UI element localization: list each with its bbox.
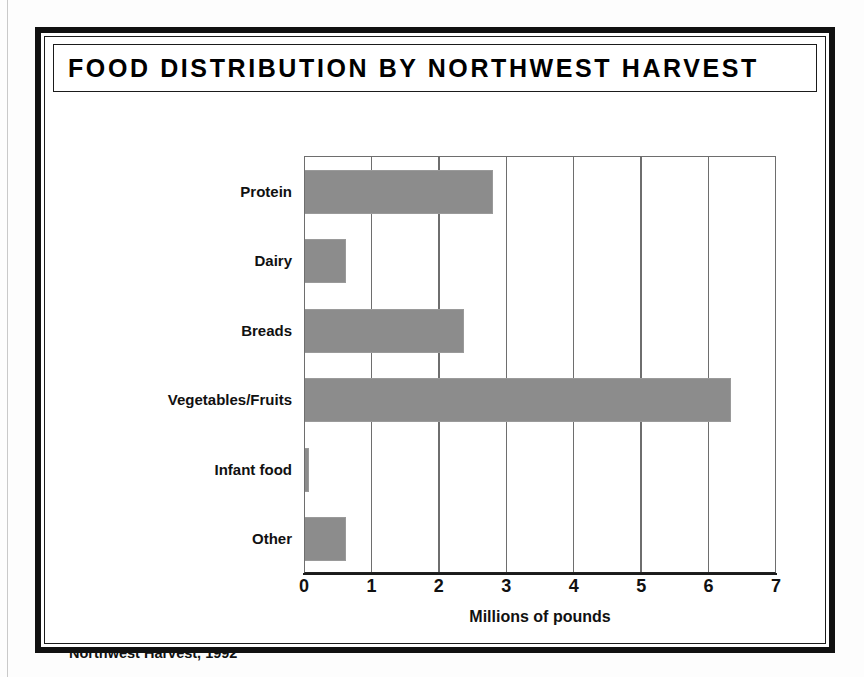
bar-row: Infant food [304,448,776,492]
bar [304,309,464,353]
category-label: Infant food [215,448,292,492]
gridline [506,156,508,573]
plot-border [304,156,776,573]
x-tick-label: 2 [434,577,444,595]
x-tick-label: 5 [636,577,646,595]
x-tick-label: 3 [501,577,511,595]
gridline [573,156,575,573]
x-tick-label: 0 [299,577,309,595]
category-label: Protein [240,170,292,214]
bar [304,378,731,422]
x-axis-baseline [303,573,777,575]
scanned-page: FOOD DISTRIBUTION BY NORTHWEST HARVEST P… [0,0,864,677]
bar-row: Dairy [304,239,776,283]
bar-row: Breads [304,309,776,353]
gridline [640,156,642,573]
bar [304,239,346,283]
x-tick-label: 1 [366,577,376,595]
x-tick-label: 4 [569,577,579,595]
figure-frame: FOOD DISTRIBUTION BY NORTHWEST HARVEST P… [35,27,835,653]
category-label: Breads [241,309,292,353]
source-note: Northwest Harvest, 1992 [69,645,237,661]
bar-row: Other [304,517,776,561]
bar-row: Vegetables/Fruits [304,378,776,422]
chart-title-box: FOOD DISTRIBUTION BY NORTHWEST HARVEST [53,44,817,92]
gridline [708,156,710,573]
bar [304,448,309,492]
category-label: Dairy [254,239,292,283]
x-tick-label: 6 [704,577,714,595]
x-axis-title: Millions of pounds [304,608,776,626]
page-title: FOOD DISTRIBUTION BY NORTHWEST HARVEST [68,56,759,81]
bar-row: Protein [304,170,776,214]
scan-edge-line [7,0,8,677]
x-tick-label: 7 [771,577,781,595]
bar [304,170,493,214]
figure-inner-border: FOOD DISTRIBUTION BY NORTHWEST HARVEST P… [44,36,826,644]
plot-area: ProteinDairyBreadsVegetables/FruitsInfan… [304,156,776,573]
chart-body: ProteinDairyBreadsVegetables/FruitsInfan… [45,95,825,643]
gridline [371,156,373,573]
category-label: Vegetables/Fruits [168,378,292,422]
category-label: Other [252,517,292,561]
gridline [438,156,440,573]
bar [304,517,346,561]
